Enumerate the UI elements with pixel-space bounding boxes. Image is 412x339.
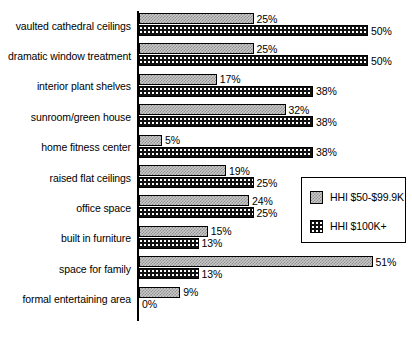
bar-group-hhi-100k-plus: 50%	[139, 55, 368, 66]
bar	[139, 13, 254, 24]
legend-label: HHI $50-$99.9K	[330, 192, 404, 203]
bar-group-hhi-50-99: 25%	[139, 13, 254, 24]
bar-group-hhi-100k-plus: 25%	[139, 207, 254, 218]
bar-value-label: 50%	[371, 55, 392, 66]
bar	[139, 74, 217, 85]
bar-value-label: 5%	[165, 135, 180, 146]
bar	[139, 287, 180, 298]
bar-group-hhi-100k-plus: 13%	[139, 268, 199, 279]
dark-dotted-swatch-icon	[310, 220, 323, 233]
chart-legend: HHI $50-$99.9K HHI $100K+	[301, 177, 406, 243]
horizontal-bar-chart: vaulted cathedral ceilings25%50%dramatic…	[0, 0, 412, 339]
chart-row: formal entertaining area9%0%	[0, 285, 412, 315]
bar-value-label: 13%	[202, 268, 223, 279]
bar	[139, 135, 162, 146]
chart-row: home fitness center5%38%	[0, 133, 412, 163]
bar-group-hhi-100k-plus: 38%	[139, 116, 313, 127]
chart-row: space for family51%13%	[0, 254, 412, 284]
bar-value-label: 51%	[376, 256, 397, 267]
bar-group-hhi-50-99: 17%	[139, 74, 217, 85]
bar	[139, 226, 208, 237]
bar-group-hhi-50-99: 32%	[139, 104, 286, 115]
bar	[139, 177, 254, 188]
bar-value-label: 19%	[229, 165, 250, 176]
bar-group-hhi-100k-plus: 38%	[139, 147, 313, 158]
bar-value-label: 9%	[183, 287, 198, 298]
bar-value-label: 15%	[211, 226, 232, 237]
bar	[139, 207, 254, 218]
bar-value-label: 25%	[257, 207, 278, 218]
chart-row: dramatic window treatment25%50%	[0, 41, 412, 71]
bar-group-hhi-50-99: 15%	[139, 226, 208, 237]
bar	[139, 195, 249, 206]
bar-value-label: 24%	[252, 195, 273, 206]
bar	[139, 43, 254, 54]
bar	[139, 147, 313, 158]
bar-group-hhi-50-99: 9%	[139, 287, 180, 298]
bar-group-hhi-50-99: 19%	[139, 165, 226, 176]
bar-group-hhi-50-99: 5%	[139, 135, 162, 146]
bar	[139, 104, 286, 115]
bar-group-hhi-100k-plus: 38%	[139, 86, 313, 97]
chart-row: vaulted cathedral ceilings25%50%	[0, 11, 412, 41]
legend-label: HHI $100K+	[330, 221, 387, 232]
chart-row: interior plant shelves17%38%	[0, 72, 412, 102]
bar-group-hhi-100k-plus: 50%	[139, 25, 368, 36]
chart-row: sunroom/green house32%38%	[0, 102, 412, 132]
bar	[139, 238, 199, 249]
category-label: interior plant shelves	[0, 72, 131, 102]
bar	[139, 165, 226, 176]
bar-group-hhi-50-99: 24%	[139, 195, 249, 206]
category-label: dramatic window treatment	[0, 41, 131, 71]
bar-value-label: 25%	[257, 177, 278, 188]
bar-group-hhi-100k-plus: 25%	[139, 177, 254, 188]
bar	[139, 55, 368, 66]
bar-value-label: 32%	[289, 104, 310, 115]
light-checker-swatch-icon	[310, 191, 323, 204]
bar-value-label: 13%	[202, 238, 223, 249]
legend-item-hhi-100k-plus: HHI $100K+	[310, 219, 387, 233]
category-label: home fitness center	[0, 133, 131, 163]
bar-value-label: 50%	[371, 25, 392, 36]
bar-value-label: 38%	[316, 116, 337, 127]
bar-value-label: 25%	[257, 13, 278, 24]
category-label: sunroom/green house	[0, 102, 131, 132]
bar	[139, 25, 368, 36]
bar	[139, 116, 313, 127]
bar	[139, 268, 199, 279]
plot-area: vaulted cathedral ceilings25%50%dramatic…	[0, 0, 412, 339]
bar-group-hhi-100k-plus: 0%	[139, 299, 140, 310]
bar-value-label: 25%	[257, 43, 278, 54]
category-label: office space	[0, 193, 131, 223]
bar	[139, 256, 373, 267]
bar-value-label: 38%	[316, 86, 337, 97]
category-label: formal entertaining area	[0, 285, 131, 315]
bar-value-label: 38%	[316, 147, 337, 158]
bar-value-label: 0%	[142, 299, 157, 310]
category-label: vaulted cathedral ceilings	[0, 11, 131, 41]
bar	[139, 86, 313, 97]
bar-value-label: 17%	[220, 74, 241, 85]
legend-item-hhi-50-99: HHI $50-$99.9K	[310, 190, 404, 204]
bar-group-hhi-50-99: 25%	[139, 43, 254, 54]
category-label: raised flat ceilings	[0, 163, 131, 193]
bar-group-hhi-50-99: 51%	[139, 256, 373, 267]
category-label: space for family	[0, 254, 131, 284]
category-label: built in furniture	[0, 224, 131, 254]
bar-group-hhi-100k-plus: 13%	[139, 238, 199, 249]
